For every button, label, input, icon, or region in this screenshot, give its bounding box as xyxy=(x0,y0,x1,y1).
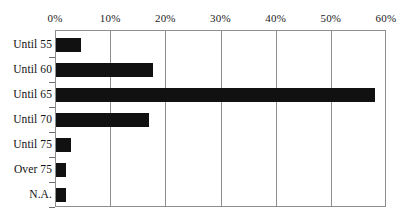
plot-area xyxy=(55,30,386,207)
x-tick-label-10pct: 10% xyxy=(100,12,121,24)
gridline-30pct xyxy=(221,31,222,206)
gridline-20pct xyxy=(165,31,166,206)
x-tick-label-20pct: 20% xyxy=(155,12,176,24)
bar-until-75 xyxy=(56,138,71,152)
bar-until-70 xyxy=(56,113,149,127)
category-label-n-a: N.A. xyxy=(29,188,52,201)
bar-until-60 xyxy=(56,63,153,77)
x-tick-label-40pct: 40% xyxy=(265,12,286,24)
category-label-until-65: Until 65 xyxy=(13,88,52,101)
category-label-until-70: Until 70 xyxy=(13,113,52,126)
bar-over-75 xyxy=(56,163,66,177)
category-label-until-75: Until 75 xyxy=(13,138,52,151)
category-label-until-60: Until 60 xyxy=(13,63,52,76)
bar-until-65 xyxy=(56,88,375,102)
gridline-50pct xyxy=(331,31,332,206)
x-tick-label-60pct: 60% xyxy=(376,12,397,24)
x-tick-label-50pct: 50% xyxy=(320,12,341,24)
x-tick-label-30pct: 30% xyxy=(210,12,231,24)
bar-n-a xyxy=(56,188,66,202)
category-axis-labels: Until 55Until 60Until 65Until 70Until 75… xyxy=(0,0,52,222)
category-label-until-55: Until 55 xyxy=(13,38,52,51)
horizontal-bar-chart: 0%10%20%30%40%50%60% Until 55Until 60Unt… xyxy=(0,0,414,222)
bar-until-55 xyxy=(56,38,81,52)
category-label-over-75: Over 75 xyxy=(14,163,52,176)
gridline-40pct xyxy=(276,31,277,206)
